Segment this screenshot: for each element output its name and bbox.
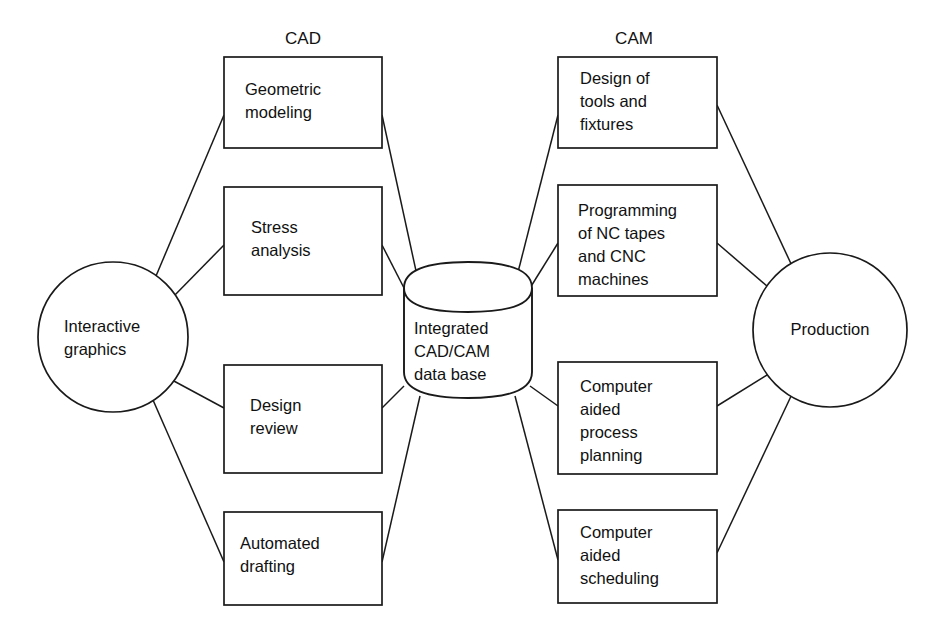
stress-analysis-label-line1: Stress	[251, 218, 298, 236]
design-review-label-line2: review	[250, 419, 298, 437]
node-production[interactable]: Production	[753, 253, 907, 407]
node-design-of-tools-and-fixtures[interactable]: Design of tools and fixtures	[558, 57, 717, 148]
edge-database-to-computer-aided-process-planning	[530, 386, 558, 406]
node-computer-aided-scheduling[interactable]: Computer aided scheduling	[558, 510, 717, 603]
computer-aided-process-planning-label-line3: process	[580, 423, 638, 441]
section-header-cad: CAD	[285, 29, 321, 48]
cad-cam-diagram: CAD CAM Interactive graphics Geometric m…	[0, 0, 937, 634]
database-label-line1: Integrated	[414, 319, 488, 337]
node-computer-aided-process-planning[interactable]: Computer aided process planning	[558, 362, 717, 474]
programming-nc-cnc-label-line2: of NC tapes	[578, 224, 665, 242]
production-label-line1: Production	[791, 320, 870, 338]
edge-stress-analysis-to-database	[382, 245, 404, 288]
automated-drafting-label-line2: drafting	[240, 557, 295, 575]
edge-computer-aided-process-planning-to-production	[717, 370, 775, 406]
design-review-box	[224, 365, 382, 473]
programming-nc-cnc-label-line1: Programming	[578, 201, 677, 219]
design-of-tools-and-fixtures-label-line3: fixtures	[580, 115, 633, 133]
node-database[interactable]: Integrated CAD/CAM data base	[404, 262, 532, 398]
edge-computer-aided-scheduling-to-production	[717, 392, 793, 553]
edge-interactive-graphics-to-stress-analysis	[172, 245, 224, 298]
edge-database-to-design-of-tools-and-fixtures	[516, 115, 558, 280]
computer-aided-process-planning-label-line2: aided	[580, 400, 620, 418]
geometric-modeling-label-line2: modeling	[245, 103, 312, 121]
database-label-line3: data base	[414, 365, 486, 383]
programming-nc-cnc-label-line4: machines	[578, 270, 649, 288]
design-of-tools-and-fixtures-label-line2: tools and	[580, 92, 647, 110]
interactive-graphics-label-line1: Interactive	[64, 317, 140, 335]
edge-database-to-computer-aided-scheduling	[515, 396, 558, 560]
node-programming-nc-cnc[interactable]: Programming of NC tapes and CNC machines	[558, 185, 717, 296]
edge-database-to-programming-nc-cnc	[530, 243, 558, 288]
automated-drafting-label-line1: Automated	[240, 534, 320, 552]
diagram-canvas: CAD CAM Interactive graphics Geometric m…	[0, 0, 937, 634]
node-design-review[interactable]: Design review	[224, 365, 382, 473]
stress-analysis-label-line2: analysis	[251, 241, 311, 259]
computer-aided-process-planning-label-line1: Computer	[580, 377, 653, 395]
programming-nc-cnc-label-line3: and CNC	[578, 247, 646, 265]
node-automated-drafting[interactable]: Automated drafting	[224, 512, 382, 605]
computer-aided-scheduling-label-line1: Computer	[580, 523, 653, 541]
computer-aided-process-planning-label-line4: planning	[580, 446, 642, 464]
node-stress-analysis[interactable]: Stress analysis	[224, 187, 382, 295]
edge-automated-drafting-to-database	[382, 396, 420, 562]
edge-design-review-to-database	[382, 386, 404, 408]
interactive-graphics-circle	[38, 262, 188, 412]
design-of-tools-and-fixtures-label-line1: Design of	[580, 69, 650, 87]
computer-aided-scheduling-label-line3: scheduling	[580, 569, 659, 587]
computer-aided-scheduling-label-line2: aided	[580, 546, 620, 564]
design-review-label-line1: Design	[250, 396, 301, 414]
interactive-graphics-label-line2: graphics	[64, 340, 126, 358]
geometric-modeling-label-line1: Geometric	[245, 80, 321, 98]
edge-interactive-graphics-to-automated-drafting	[153, 400, 224, 562]
edge-design-of-tools-and-fixtures-to-production	[717, 105, 793, 268]
edge-interactive-graphics-to-geometric-modeling	[156, 115, 224, 276]
section-header-cam: CAM	[615, 29, 653, 48]
node-interactive-graphics[interactable]: Interactive graphics	[38, 262, 188, 412]
edge-programming-nc-cnc-to-production	[717, 243, 774, 292]
node-geometric-modeling[interactable]: Geometric modeling	[224, 57, 382, 148]
database-label-line2: CAD/CAM	[414, 342, 490, 360]
edge-interactive-graphics-to-design-review	[172, 380, 224, 408]
